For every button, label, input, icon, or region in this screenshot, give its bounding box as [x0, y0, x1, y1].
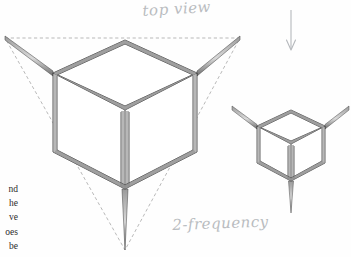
scanned-page: top view 2-frequency nd he ve oes be [0, 0, 351, 257]
body-text-line: oes [0, 225, 18, 239]
body-text-line: ve [0, 210, 18, 224]
small-strut-cube [232, 106, 349, 213]
body-text-line: nd [0, 182, 18, 196]
downward-arrow-icon [287, 10, 296, 50]
body-text-fragment: nd he ve oes be [0, 182, 18, 253]
label-2-frequency: 2-frequency [172, 213, 269, 234]
body-text-line: be [0, 239, 18, 253]
body-text-line: he [0, 196, 18, 210]
